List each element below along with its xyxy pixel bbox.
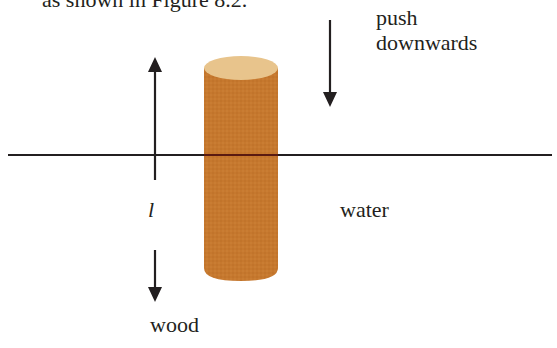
caption-text: as shown in Figure 8.2.	[42, 0, 247, 12]
length-label: l	[148, 197, 154, 222]
push-label-line-1: push	[376, 5, 477, 30]
wood-cylinder-body	[204, 68, 278, 281]
push-downwards-label: push downwards	[376, 5, 477, 55]
wood-cylinder	[204, 56, 278, 281]
push-down-arrow-icon	[323, 20, 337, 107]
length-down-arrow-icon	[148, 250, 162, 302]
water-label: water	[340, 197, 389, 222]
push-label-line-2: downwards	[376, 30, 477, 55]
wood-cylinder-top	[204, 56, 278, 80]
wood-label: wood	[150, 312, 199, 337]
length-up-arrow-icon	[148, 57, 162, 180]
